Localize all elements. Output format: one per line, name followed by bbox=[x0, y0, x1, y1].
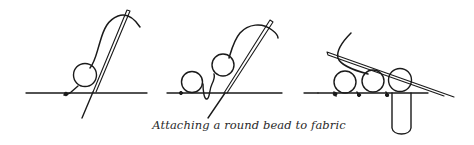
bead bbox=[334, 71, 356, 93]
needle bbox=[224, 20, 273, 93]
step-2-figure bbox=[167, 20, 318, 118]
knot bbox=[333, 92, 337, 96]
needle bbox=[327, 52, 454, 97]
knot bbox=[385, 93, 388, 96]
thread-loop bbox=[203, 74, 214, 99]
bead bbox=[74, 64, 97, 87]
needle-shaft-below bbox=[82, 92, 93, 118]
bead bbox=[182, 72, 203, 93]
needle-shaft-below bbox=[208, 93, 225, 118]
thread bbox=[90, 15, 140, 68]
knot bbox=[179, 91, 182, 94]
caption-text: Attaching a round bead to fabric bbox=[152, 118, 345, 132]
knot bbox=[357, 93, 360, 96]
knot bbox=[64, 92, 68, 96]
step-1-figure bbox=[26, 10, 147, 118]
needle bbox=[93, 10, 130, 92]
bead bbox=[212, 54, 234, 76]
figure-caption: Attaching a round bead to fabric bbox=[0, 118, 474, 132]
